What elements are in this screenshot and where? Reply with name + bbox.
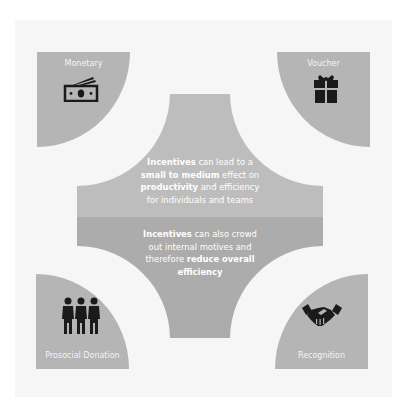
bold-term: Incentives <box>143 229 192 239</box>
bold-term: Incentives <box>147 157 196 167</box>
quadrant-label-voucher: Voucher <box>277 59 370 68</box>
text-span: therefore <box>145 254 186 264</box>
text-span: can also crowd <box>192 229 257 239</box>
center-statement-card: Incentives can lead to a small to medium… <box>77 94 323 338</box>
bold-term: small to medium <box>141 170 220 180</box>
text-line: out internal motives and <box>77 241 323 254</box>
bold-term: reduce overall <box>187 254 255 264</box>
text-span: effect on <box>219 170 259 180</box>
incentives-crowding-out-text: Incentives can also crowd out internal m… <box>77 228 323 278</box>
text-span: and efficiency <box>198 182 259 192</box>
center-concave-shape <box>77 94 323 338</box>
incentives-positive-effect-text: Incentives can lead to a small to medium… <box>77 156 323 206</box>
text-line: for individuals and teams <box>77 194 323 207</box>
quadrant-label-monetary: Monetary <box>37 59 130 68</box>
quadrant-label-prosocial-donation: Prosocial Donation <box>36 351 129 360</box>
quadrant-label-recognition: Recognition <box>275 351 368 360</box>
bold-term: efficiency <box>178 267 223 277</box>
bold-term: productivity <box>141 182 198 192</box>
text-span: can lead to a <box>196 157 253 167</box>
